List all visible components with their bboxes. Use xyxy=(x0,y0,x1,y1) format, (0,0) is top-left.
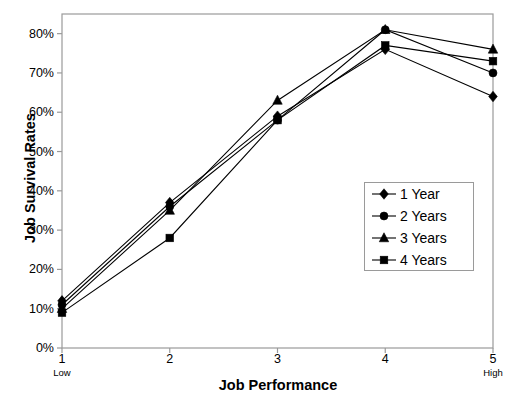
data-point-marker xyxy=(273,95,282,104)
circle-marker-icon xyxy=(371,209,397,223)
data-series-4 xyxy=(58,42,497,317)
x-tick-label: 5 xyxy=(463,352,509,366)
job-survival-chart: Job Survival Rates 0%10%20%30%40%50%60%7… xyxy=(0,0,509,408)
legend-marker xyxy=(379,233,388,242)
x-tick-label: 1 xyxy=(32,352,92,366)
x-axis-title: Job Performance xyxy=(62,377,494,393)
legend-item-3[interactable]: 3 Years xyxy=(365,227,473,249)
data-point-marker xyxy=(381,42,389,50)
data-point-marker xyxy=(489,69,497,77)
square-marker-icon xyxy=(371,253,397,267)
x-tick-label: 3 xyxy=(248,352,308,366)
legend-label: 2 Years xyxy=(400,208,447,224)
legend-marker xyxy=(380,256,388,264)
data-point-marker xyxy=(166,234,174,242)
data-point-marker xyxy=(274,116,282,124)
legend-item-2[interactable]: 2 Years xyxy=(365,205,473,227)
x-tick-label: 4 xyxy=(355,352,415,366)
diamond-marker-icon xyxy=(371,187,397,201)
legend: 1 Year2 Years3 Years4 Years xyxy=(364,182,474,271)
x-tick-label: 2 xyxy=(140,352,200,366)
data-point-marker xyxy=(58,309,66,317)
legend-label: 3 Years xyxy=(400,230,447,246)
legend-item-4[interactable]: 4 Years xyxy=(365,249,473,271)
legend-marker xyxy=(380,212,388,220)
data-point-marker xyxy=(489,91,498,102)
series-line xyxy=(62,45,493,312)
plot-frame xyxy=(62,14,493,348)
legend-label: 1 Year xyxy=(400,186,440,202)
legend-marker xyxy=(380,189,389,200)
data-point-marker xyxy=(489,57,497,65)
legend-label: 4 Years xyxy=(400,252,447,268)
legend-item-1[interactable]: 1 Year xyxy=(365,183,473,205)
triangle-marker-icon xyxy=(371,231,397,245)
